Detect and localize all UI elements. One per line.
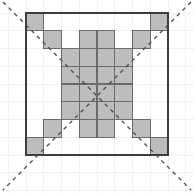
shaded-cell [79, 31, 97, 49]
shaded-cell [62, 49, 80, 67]
shaded-cell [115, 84, 133, 102]
shaded-cell [79, 66, 97, 84]
shaded-cell [62, 66, 80, 84]
shaded-cell [97, 49, 115, 67]
shaded-cell [115, 49, 133, 67]
shaded-cell [26, 137, 44, 155]
shaded-cell [97, 31, 115, 49]
shaded-cell [79, 120, 97, 138]
shaded-cell [62, 84, 80, 102]
shaded-cell [150, 137, 168, 155]
shaded-cell [150, 13, 168, 31]
shaded-cell [44, 31, 62, 49]
shaded-cell [133, 31, 151, 49]
symmetry-figure-svg [0, 0, 194, 193]
shaded-cell [115, 66, 133, 84]
figure-container [0, 0, 194, 193]
shaded-cell [97, 66, 115, 84]
shaded-cell [97, 120, 115, 138]
shaded-cell [79, 49, 97, 67]
shaded-cell [26, 13, 44, 31]
